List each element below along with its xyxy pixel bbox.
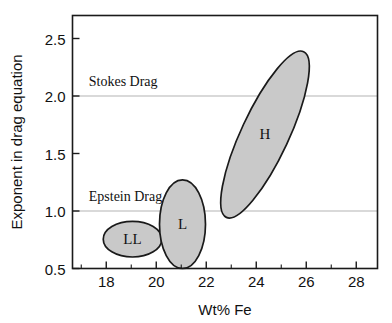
cluster-label-l: L xyxy=(178,216,187,232)
x-tick-label-22: 22 xyxy=(198,273,215,290)
cluster-ellipse-chart: 182022242628 0.51.01.52.02.5 Stokes Drag… xyxy=(0,0,392,323)
annotation-epstein-drag: Epstein Drag xyxy=(89,189,162,204)
cluster-label-h: H xyxy=(260,126,271,142)
x-axis-title: Wt% Fe xyxy=(198,301,251,318)
x-tick-label-18: 18 xyxy=(98,273,115,290)
y-axis-title: Exponent in drag equation xyxy=(8,54,25,229)
x-tick-label-26: 26 xyxy=(298,273,315,290)
x-tick-label-24: 24 xyxy=(248,273,265,290)
y-tick-label-1.0: 1.0 xyxy=(45,203,66,220)
annotation-stokes-drag: Stokes Drag xyxy=(89,74,158,89)
chart-figure: 182022242628 0.51.01.52.02.5 Stokes Drag… xyxy=(0,0,392,323)
cluster-label-ll: LL xyxy=(123,231,141,247)
x-tick-label-20: 20 xyxy=(148,273,165,290)
y-tick-label-2.0: 2.0 xyxy=(45,88,66,105)
y-tick-label-2.5: 2.5 xyxy=(45,31,66,48)
x-tick-label-28: 28 xyxy=(348,273,365,290)
y-tick-label-0.5: 0.5 xyxy=(45,261,66,278)
y-tick-label-1.5: 1.5 xyxy=(45,146,66,163)
